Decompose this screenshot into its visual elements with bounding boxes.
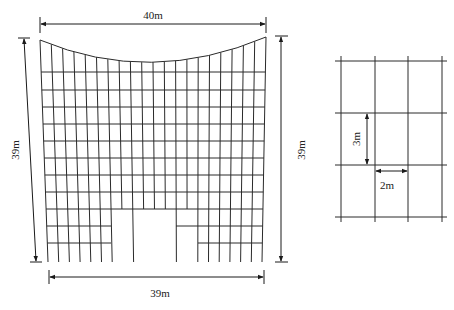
- right-dimension-label: 39m: [295, 140, 307, 160]
- left-dimension-label: 39m: [9, 140, 21, 160]
- vertical-spacing-label: 3m: [350, 132, 362, 147]
- bottom-dimension-label: 39m: [150, 287, 170, 299]
- left-dimension: 39m: [9, 38, 42, 262]
- detail-grid: 3m 2m: [335, 56, 447, 222]
- horizontal-spacing-label: 2m: [380, 179, 395, 191]
- mesh-diagram: 40m 39m 39m 39m 3m 2m: [0, 0, 454, 310]
- top-dimension: 40m: [40, 9, 266, 33]
- right-dimension: 39m: [275, 36, 307, 262]
- top-dimension-label: 40m: [143, 9, 163, 21]
- bottom-dimension: 39m: [49, 270, 264, 299]
- main-mesh: [40, 37, 266, 262]
